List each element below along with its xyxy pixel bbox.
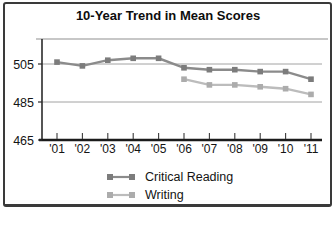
data-point-marker-writing <box>207 82 213 88</box>
data-point-marker-critical-reading <box>232 67 238 73</box>
x-tick-label: '07 <box>202 142 218 156</box>
x-tick-label: '04 <box>125 142 141 156</box>
data-point-marker-critical-reading <box>80 63 86 69</box>
data-point-marker-writing <box>257 84 263 90</box>
data-point-marker-writing <box>308 92 314 98</box>
data-point-marker-critical-reading <box>105 57 111 63</box>
x-tick-label: '09 <box>252 142 268 156</box>
legend-square-marker-icon <box>107 174 113 180</box>
x-tick-label: '02 <box>75 142 91 156</box>
series-line-writing <box>184 79 311 94</box>
legend-swatch-writing <box>107 190 137 200</box>
x-tick-label: '05 <box>151 142 167 156</box>
legend-swatch-critical-reading <box>107 172 137 182</box>
legend-square-marker-icon <box>107 192 113 198</box>
data-point-marker-writing <box>181 76 187 82</box>
data-point-marker-critical-reading <box>54 59 60 65</box>
legend-label: Writing <box>145 188 184 202</box>
legend-label: Critical Reading <box>145 170 233 184</box>
y-tick-label: 485 <box>13 96 34 110</box>
legend-item-writing: Writing <box>107 186 233 204</box>
data-point-marker-writing <box>232 82 238 88</box>
data-point-marker-writing <box>283 86 289 92</box>
data-point-marker-critical-reading <box>130 56 136 62</box>
x-tick-label: '08 <box>227 142 243 156</box>
x-tick-label: '03 <box>100 142 116 156</box>
x-tick-label: '10 <box>278 142 294 156</box>
data-point-marker-critical-reading <box>283 69 289 75</box>
data-point-marker-critical-reading <box>308 76 314 82</box>
legend-square-marker-icon <box>129 192 135 198</box>
data-point-marker-critical-reading <box>207 67 213 73</box>
data-point-marker-critical-reading <box>257 69 263 75</box>
x-tick-label: '11 <box>304 142 319 156</box>
y-tick-label: 465 <box>13 134 34 148</box>
chart-legend: Critical Reading Writing <box>107 168 233 204</box>
legend-square-marker-icon <box>129 174 135 180</box>
data-point-marker-critical-reading <box>181 65 187 71</box>
legend-item-critical-reading: Critical Reading <box>107 168 233 186</box>
data-point-marker-critical-reading <box>156 56 162 62</box>
y-tick-label: 505 <box>13 58 34 72</box>
x-tick-label: '06 <box>176 142 192 156</box>
x-tick-label: '01 <box>49 142 65 156</box>
